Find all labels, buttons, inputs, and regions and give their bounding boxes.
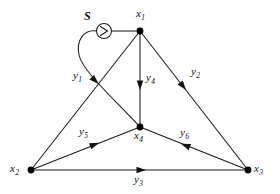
branch-label-y4: y4 <box>146 72 155 83</box>
source-circle-icon <box>97 24 112 39</box>
branch-label-y1: y1 <box>73 70 82 81</box>
arrowhead-y6 <box>180 141 191 151</box>
network-graph-figure: S x1 x2 x3 x4 y1 y2 y3 y4 y5 y6 <box>0 0 280 194</box>
source-label: S <box>84 10 91 22</box>
branch-label-y6: y6 <box>180 127 189 138</box>
branch-label-y5: y5 <box>79 126 88 137</box>
node-x1-dot[interactable] <box>137 28 144 35</box>
branch-label-y3: y3 <box>134 174 143 185</box>
arrowhead-y4 <box>137 81 144 91</box>
node-label-x2: x2 <box>10 163 19 174</box>
edge-y1-source-to-x4 <box>78 31 140 127</box>
node-x3-dot[interactable] <box>245 167 252 174</box>
branch-label-y2: y2 <box>191 66 200 77</box>
node-x2-dot[interactable] <box>28 167 35 174</box>
edge-y2-x1-to-x3 <box>140 31 248 170</box>
graph-canvas <box>0 0 280 194</box>
edge-layer <box>31 31 248 170</box>
edge-x2-to-x1 <box>31 31 140 170</box>
node-label-x1: x1 <box>136 8 145 19</box>
source-symbol <box>97 24 112 39</box>
node-label-x3: x3 <box>254 163 263 174</box>
arrowhead-y5 <box>89 140 100 150</box>
node-label-x4: x4 <box>134 130 143 141</box>
